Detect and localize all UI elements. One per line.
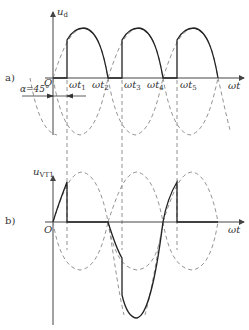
x-axis-label-a: ωt <box>228 80 240 91</box>
time-label-2: ωt2 <box>92 79 109 92</box>
panel-b-dashed-waves <box>53 172 218 315</box>
panel-b-tag: b) <box>5 215 15 226</box>
time-label-4: ωt4 <box>147 79 164 92</box>
time-label-5: ωt5 <box>180 79 197 92</box>
alpha-dimension <box>22 94 86 98</box>
y-axis-label-b: uVT1 <box>33 166 54 179</box>
time-label-1: ωt1 <box>69 79 86 92</box>
time-label-3: ωt3 <box>124 79 141 92</box>
panel-a-output-waveform <box>53 28 218 78</box>
panel-b-vt1-voltage <box>53 182 218 318</box>
waveform-diagram <box>0 0 249 330</box>
panel-b-axes <box>45 176 244 325</box>
y-axis-label-a: ud <box>57 6 68 19</box>
guide-lines <box>67 80 177 250</box>
x-axis-label-b: ωt <box>228 224 240 235</box>
origin-label-b: O <box>44 224 52 235</box>
alpha-label: α=45° <box>20 84 50 94</box>
panel-a-tag: a) <box>5 72 15 83</box>
